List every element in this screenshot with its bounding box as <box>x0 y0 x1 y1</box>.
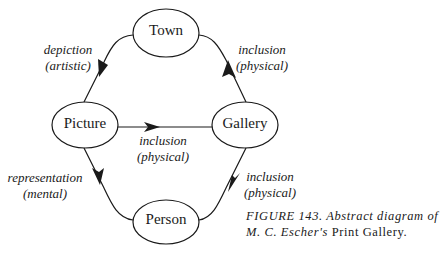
edge-label-line1: depiction <box>44 42 92 58</box>
edge-label-line1: inclusion <box>137 133 189 149</box>
edge-label-line2: (physical) <box>244 185 296 201</box>
picture-label: Picture <box>50 115 120 132</box>
figure-caption: FIGURE 143. Abstract diagram of M. C. Es… <box>246 208 438 240</box>
arrowhead-gallery-town-icon <box>222 60 236 78</box>
caption-author: M. C. Escher's <box>246 225 328 239</box>
edge-label-picture-gallery: inclusion (physical) <box>137 133 189 165</box>
edge-label-line2: (physical) <box>137 149 189 165</box>
person-label: Person <box>131 211 201 228</box>
edge-label-line1: representation <box>8 170 83 186</box>
edge-picture-person <box>84 148 133 220</box>
edge-label-line1: inclusion <box>244 169 296 185</box>
edge-person-gallery <box>199 148 246 220</box>
edge-label-gallery-town: inclusion (physical) <box>236 42 288 74</box>
arrowhead-person-gallery-icon <box>228 173 240 192</box>
gallery-label: Gallery <box>210 115 280 132</box>
caption-work-title: Print Gallery. <box>332 225 408 239</box>
arrowhead-depiction-icon <box>98 59 108 77</box>
edge-label-line2: (artistic) <box>44 58 92 74</box>
caption-text: Abstract diagram of <box>326 209 438 223</box>
edge-label-line2: (mental) <box>8 186 83 202</box>
edge-label-depiction: depiction (artistic) <box>44 42 92 74</box>
figure-number: FIGURE 143. <box>246 209 323 223</box>
edge-label-representation: representation (mental) <box>8 170 83 202</box>
town-label: Town <box>131 22 201 39</box>
edge-label-line2: (physical) <box>236 58 288 74</box>
arrowhead-picture-person-icon <box>92 168 104 185</box>
edge-label-line1: inclusion <box>236 42 288 58</box>
edge-label-person-gallery: inclusion (physical) <box>244 169 296 201</box>
